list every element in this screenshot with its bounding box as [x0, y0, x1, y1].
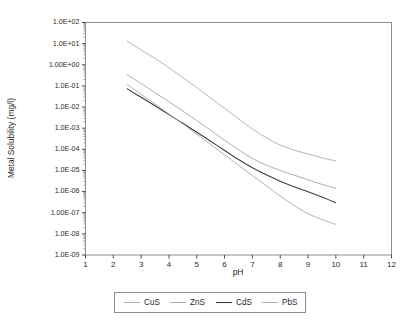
chart-legend: CuSZnSCdSPbS — [115, 293, 306, 313]
y-tick-label-11: 1.0E-09 — [55, 251, 80, 259]
series-line-zns — [127, 75, 336, 189]
x-tick-label-8: 9 — [306, 260, 311, 269]
x-tick-label-0: 1 — [83, 260, 88, 269]
y-tick-label-8: 1.0E-06 — [55, 187, 80, 195]
x-tick-label-9: 10 — [331, 260, 340, 269]
plot-area-frame — [86, 23, 392, 256]
x-tick-label-10: 11 — [360, 260, 369, 269]
y-tick-label-2: 1.00E+00 — [49, 61, 80, 69]
x-tick-label-1: 2 — [111, 260, 116, 269]
x-tick-label-2: 3 — [139, 260, 144, 269]
legend-label-zns: ZnS — [190, 298, 206, 307]
x-axis-major-ticks — [86, 255, 392, 259]
y-tick-label-0: 1.0E+02 — [53, 18, 80, 26]
y-axis-tick-labels: 1.0E+021.0E+011.00E+001.0E-011.0E-021.0E… — [49, 18, 80, 259]
series-line-cus — [127, 41, 336, 161]
y-tick-label-3: 1.0E-01 — [55, 82, 80, 90]
y-tick-label-6: 1.0E-04 — [55, 145, 80, 153]
x-tick-label-3: 4 — [167, 260, 172, 269]
y-tick-label-7: 1.0E-05 — [55, 166, 80, 174]
x-tick-label-4: 5 — [195, 260, 200, 269]
legend-label-cus: CuS — [144, 298, 160, 307]
x-tick-label-11: 12 — [387, 260, 396, 269]
x-axis-title: pH — [233, 267, 244, 277]
x-tick-label-7: 8 — [278, 260, 283, 269]
data-series-group — [127, 41, 336, 224]
legend-label-cds: CdS — [236, 298, 252, 307]
y-tick-label-4: 1.0E-02 — [55, 103, 80, 111]
y-tick-label-5: 1.0E-03 — [55, 124, 80, 132]
y-axis-title: Metal Solubility (mg/l) — [6, 98, 16, 178]
solubility-vs-ph-chart: 1.0E+021.0E+011.00E+001.0E-011.0E-021.0E… — [0, 0, 415, 330]
x-tick-label-5: 6 — [222, 260, 227, 269]
y-tick-label-1: 1.0E+01 — [53, 40, 80, 48]
y-tick-label-10: 1.0E-08 — [55, 230, 80, 238]
chart-canvas: 1.0E+021.0E+011.00E+001.0E-011.0E-021.0E… — [0, 0, 415, 330]
y-tick-label-9: 1.00E-07 — [51, 209, 80, 217]
x-tick-label-6: 7 — [250, 260, 255, 269]
legend-label-pbs: PbS — [282, 298, 298, 307]
